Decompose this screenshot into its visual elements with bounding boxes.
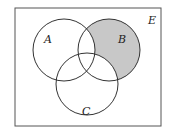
set-b-label: B bbox=[117, 33, 126, 46]
universe-label: E bbox=[147, 14, 156, 27]
set-c-label: C bbox=[82, 105, 91, 118]
set-a-label: A bbox=[43, 33, 52, 46]
venn-diagram: A B C E bbox=[0, 0, 173, 137]
